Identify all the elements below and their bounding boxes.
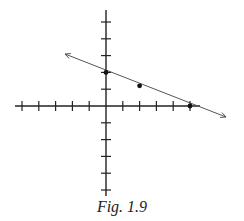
data-point [104, 70, 109, 75]
data-point [137, 83, 142, 88]
plotted-points [104, 70, 193, 108]
coordinate-plane [0, 0, 244, 221]
data-point [188, 104, 193, 109]
axes [15, 10, 200, 196]
figure-caption: Fig. 1.9 [0, 198, 244, 216]
